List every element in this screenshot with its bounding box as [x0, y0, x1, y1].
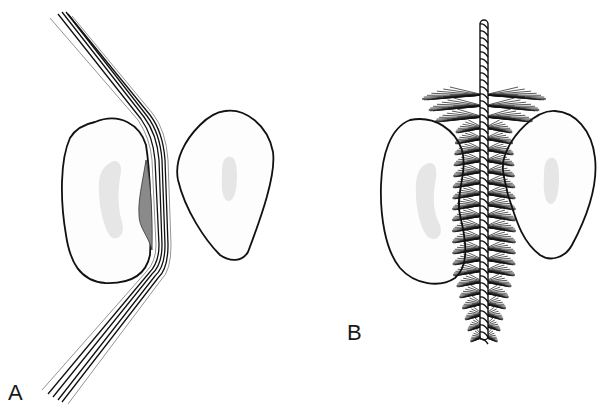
panel-b-tooth-left — [381, 119, 466, 284]
panel-a-label: A — [8, 382, 23, 404]
panel-a-tooth-left — [62, 119, 151, 284]
panel-b — [381, 20, 596, 344]
wire-core — [480, 20, 488, 340]
panel-b-tooth-right — [503, 111, 596, 258]
panel-b-label: B — [347, 322, 362, 344]
panel-a — [42, 12, 273, 404]
dental-hygiene-diagram — [0, 0, 612, 412]
panel-a-tooth-right — [177, 111, 273, 260]
brush-twisted-wire — [480, 20, 488, 344]
pulp-chamber — [544, 158, 559, 204]
